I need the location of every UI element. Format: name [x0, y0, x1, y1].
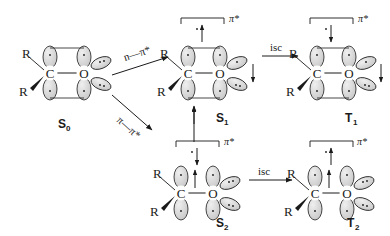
state-label-t2: T: [347, 216, 355, 230]
t1-r-top-label: R: [289, 46, 298, 61]
t1-r-bottom-label: R: [286, 84, 295, 99]
state-label-t1-sub: 1: [353, 118, 358, 127]
t1-pi-star-label: π*: [358, 13, 368, 24]
t2-r-top-label: R: [287, 166, 296, 181]
t2-r-top-bond: [294, 177, 309, 190]
t2-oxygen-lone-pairs: [352, 174, 376, 213]
s2-oxygen-label: O: [208, 186, 217, 201]
transition-isc-top-label: isc: [270, 41, 282, 53]
molecule-t1: π* C O: [286, 13, 381, 127]
t2-oxygen-label: O: [342, 186, 351, 201]
s2-carbon-label: C: [177, 186, 186, 201]
state-label-s1-sub: 1: [224, 118, 229, 127]
state-label-s2-sub: 2: [224, 223, 229, 232]
s2-r-bottom-label: R: [150, 204, 159, 219]
molecule-t2: π* C O R: [284, 136, 376, 232]
s2-r-top-label: R: [153, 166, 162, 181]
s0-r-bottom-wedge: [30, 76, 44, 91]
s2-pi-star-label: π*: [224, 136, 234, 147]
s1-carbon-label: C: [184, 66, 193, 81]
t1-r-top-bond: [296, 57, 311, 70]
s1-pi-star-bracket: π*: [181, 13, 239, 42]
t1-oxygen-label: O: [344, 66, 353, 81]
t1-r-bottom-wedge: [297, 76, 311, 91]
state-label-s2: S: [216, 216, 224, 230]
t1-oxygen-lone-pairs: [354, 54, 378, 93]
s1-pi-star-label: π*: [229, 13, 239, 24]
state-label-s0: S: [58, 117, 66, 131]
s0-r-top-label: R: [22, 46, 31, 61]
t2-carbon-label: C: [311, 186, 320, 201]
t1-pi-star-bracket: π*: [310, 13, 368, 42]
s2-r-top-bond: [160, 177, 175, 190]
t1-carbon-label: C: [313, 66, 322, 81]
s0-oxygen-lone-pairs: [89, 54, 113, 93]
state-label-s1: S: [216, 111, 224, 125]
molecule-s1: π* C O: [157, 13, 253, 127]
t2-pi-star-label: π*: [357, 136, 367, 147]
s2-r-bottom-wedge: [161, 196, 175, 211]
s1-oxygen-label: O: [215, 66, 224, 81]
molecule-s0: C O R R S 0: [19, 46, 113, 133]
transition-n-to-pistar-label: n—π*: [122, 43, 152, 63]
s1-r-bottom-label: R: [157, 84, 166, 99]
s0-oxygen-label: O: [79, 66, 88, 81]
t2-r-bottom-wedge: [295, 196, 309, 211]
s0-carbon-label: C: [46, 66, 55, 81]
s0-r-bottom-label: R: [19, 84, 28, 99]
t2-r-bottom-label: R: [284, 204, 293, 219]
diagram-canvas: C O R R S 0 n—π* π—π* π*: [0, 0, 390, 236]
s2-pi-star-bracket: π*: [176, 136, 234, 165]
molecule-s2: π* C O R: [150, 136, 242, 232]
transition-isc-bottom-label: isc: [258, 165, 270, 177]
transition-pi-to-pistar-label: π—π*: [115, 114, 144, 141]
transition-isc-bottom: isc: [249, 165, 292, 180]
transition-pi-to-pistar: π—π*: [112, 95, 152, 141]
s1-oxygen-lone-pairs: [225, 54, 249, 93]
s1-r-top-label: R: [160, 46, 169, 61]
state-label-s0-sub: 0: [66, 124, 71, 133]
s0-r-top-bond: [29, 57, 44, 70]
t2-pi-star-bracket: π*: [310, 136, 367, 165]
state-label-t2-sub: 2: [355, 223, 360, 232]
state-label-t1: T: [345, 111, 353, 125]
s1-r-top-bond: [167, 57, 182, 70]
s1-r-bottom-wedge: [168, 76, 182, 91]
s2-oxygen-lone-pairs: [218, 174, 242, 213]
